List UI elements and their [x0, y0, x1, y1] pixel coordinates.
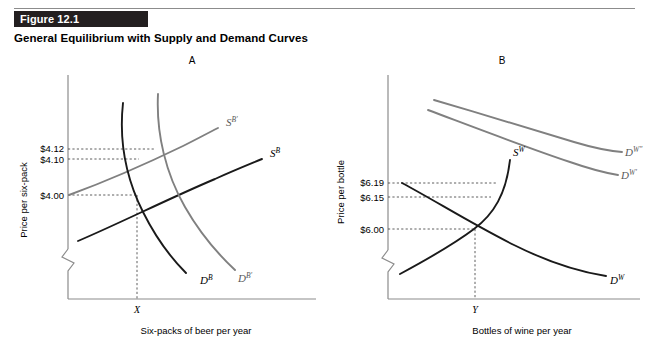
panel-b-quantity-label: Y — [472, 304, 479, 315]
panel-b-x-axis-title: Bottles of wine per year — [472, 325, 571, 336]
panel-a-quantity-label: X — [133, 304, 141, 315]
panel-b-demand-shifted-label: DW′ — [620, 168, 637, 181]
panel-a-letter: A — [189, 55, 196, 66]
panel-a-axis-break — [62, 249, 74, 299]
panel-b-supply-curve — [400, 160, 510, 274]
figure-title: General Equilibrium with Supply and Dema… — [14, 32, 308, 44]
panel-a-price-tick-412: $4.12 — [40, 143, 64, 154]
panel-a-supply-shifted-label: SB′ — [226, 115, 238, 128]
panel-a-supply-shifted-curve — [69, 128, 218, 195]
header-divider — [14, 8, 635, 9]
panel-a-price-tick-400: $4.00 — [40, 190, 64, 201]
panel-a-demand-shifted-curve — [158, 94, 235, 270]
panel-b-demand-label: DW — [609, 273, 625, 286]
panel-b-y-axis-title: Price per bottle — [335, 160, 346, 224]
panel-a-demand-shifted-label: DB′ — [237, 271, 253, 284]
figure-number-badge: Figure 12.1 — [14, 11, 148, 27]
panel-a-y-axis-title: Price per six-pack — [18, 162, 29, 238]
panel-b-letter: B — [499, 55, 506, 66]
panel-a-demand-label: DB — [199, 273, 213, 286]
panel-a-svg: A Price per six-pack $4.12 $4.10 $4.00 X… — [0, 52, 324, 339]
panel-b-demand-double-shifted-curve — [434, 100, 622, 152]
panel-b-price-tick-600: $6.00 — [360, 224, 384, 235]
panel-b-svg: B Price per bottle $6.19 $6.15 $6.00 Y S… — [322, 52, 646, 339]
chart-panel-b: B Price per bottle $6.19 $6.15 $6.00 Y S… — [322, 52, 646, 339]
panel-a-price-tick-410: $4.10 — [40, 154, 64, 165]
panel-b-demand-double-shifted-label: DW″ — [624, 145, 643, 158]
chart-panel-a: A Price per six-pack $4.12 $4.10 $4.00 X… — [0, 52, 324, 339]
panel-a-x-axis-title: Six-packs of beer per year — [141, 325, 252, 336]
panel-b-supply-label: SW — [513, 145, 526, 158]
panel-b-demand-shifted-curve — [428, 110, 618, 175]
panel-b-axis-break — [382, 250, 394, 299]
panel-a-supply-curve — [78, 159, 262, 241]
panel-b-price-tick-615: $6.15 — [360, 192, 384, 203]
panel-b-price-tick-619: $6.19 — [360, 177, 384, 188]
figure-number-label: Figure 12.1 — [14, 11, 148, 27]
panel-a-supply-label: SB — [270, 146, 281, 159]
